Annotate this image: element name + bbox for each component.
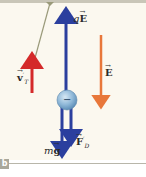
panel-divider-line (9, 163, 146, 164)
rope-line (35, 3, 50, 58)
terminal-velocity-label: v′T (17, 70, 28, 87)
electric-force-label: qE (73, 14, 87, 24)
force-diagram (0, 0, 146, 177)
panel-label-badge: b (0, 159, 9, 169)
millikan-oil-drop-figure: − v′T qE E mg F′D b (0, 0, 146, 177)
drag-force-label: F′D (76, 134, 89, 151)
field-label: E (105, 68, 113, 78)
droplet-charge-sign: − (63, 95, 71, 105)
rope-knot (46, 2, 54, 6)
gravity-label: mg (44, 146, 60, 156)
